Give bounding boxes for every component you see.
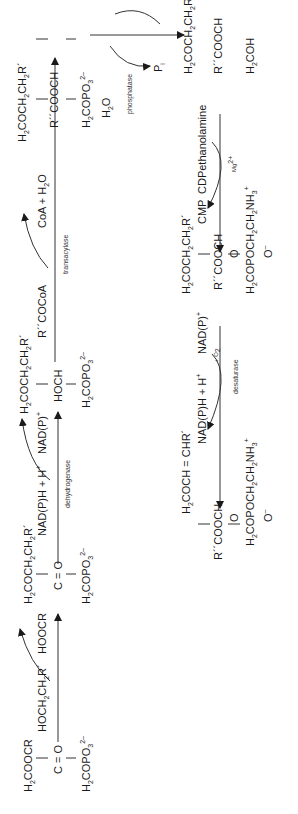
compound-plasmalogen-anion: O– (262, 510, 274, 522)
cofactor-mg: Mg2+ (228, 156, 240, 172)
compound-alkyl-acyl-g3p-row1: H2COCH2CH2R´ (16, 62, 28, 142)
compound-alkyl-g3p-row3: H2COPO32– (80, 352, 92, 408)
compound-alkyl-acyl-gpe-row3: H2COPOCH2CH2NH3+ (244, 186, 256, 294)
compound-plasmalogen-row2: R´´COOCH (212, 504, 224, 560)
compound-plasmalogen-row1: H2COCH = CHR´ (180, 430, 192, 514)
compound-alkyl-acyl-g3p-row2: R´´COOCH (48, 72, 60, 128)
compound-alkyl-acyl-glycerol-row2: R´´COOCH (212, 18, 224, 74)
reaction1-input: HOCH2CH2R´ (36, 664, 48, 732)
reaction6-input: NAD(P)H + H+ (196, 374, 208, 444)
compound-alkyl-acyl-gpe-row1: H2COCH2CH2R´ (180, 214, 192, 294)
compound-alkyl-acyl-glycerol-row3: H2COH (244, 38, 256, 74)
compound-alkyl-dhap-row2: C = O (52, 561, 64, 590)
reaction6-oxygen: + O2 (210, 348, 222, 362)
compound-alkyl-acyl-gpe-oxo: O (228, 249, 240, 258)
compound-alkyl-g3p-row1: H2COCH2CH2R´ (18, 334, 30, 414)
reaction5-output: CMP (196, 200, 208, 224)
reaction1-output: HOOCR (36, 613, 48, 654)
compound-plasmalogen-row3: H2COPOCH2CH2NH3+ (244, 438, 256, 546)
reaction3-output: CoA + H2O (36, 174, 48, 228)
reaction3-input: R´´COCoA (36, 285, 48, 338)
enzyme-phosphatase: phosphatase (124, 74, 136, 114)
enzyme-dehydrogenase: dehydrogenase (62, 460, 74, 508)
reaction2-input: NAD(P)H + H+ (36, 466, 48, 536)
compound-alkyl-dhap-row1: H2COCH2CH2R´ (22, 524, 34, 604)
compound-alkyl-g3p-row2: HOCH (52, 370, 64, 402)
compound-acyl-dhap-row3: H2COPO32– (80, 736, 92, 792)
compound-alkyl-acyl-glycerol-row1: H2COCH2CH2R´ (182, 0, 194, 74)
compound-alkyl-dhap-row3: H2COPO32– (80, 548, 92, 604)
reaction4-output: Pi (152, 63, 164, 72)
enzyme-desaturase: desaturase (230, 359, 242, 394)
compound-alkyl-acyl-gpe-row2: R´´COOCH (212, 234, 224, 290)
reaction2-output: NAD(P)+ (36, 412, 48, 454)
pathway-diagram: H2COOCR C = O H2COPO32– HOCH2CH2R´ HOOCR… (0, 0, 298, 814)
enzyme-transacylase: transacylase (60, 235, 72, 274)
compound-plasmalogen-oxo: O (228, 513, 240, 522)
compound-alkyl-acyl-g3p-row3: H2COPO32– (80, 72, 92, 128)
compound-alkyl-acyl-gpe-anion: O– (262, 246, 274, 258)
compound-acyl-dhap-row1: H2COOCR (22, 739, 34, 792)
reaction5-input: CDPethanolamine (196, 105, 208, 194)
reaction4-input: H2O (100, 98, 112, 118)
reaction6-output: NAD(P)+ (196, 312, 208, 354)
compound-acyl-dhap-row2: C = O (52, 745, 64, 774)
